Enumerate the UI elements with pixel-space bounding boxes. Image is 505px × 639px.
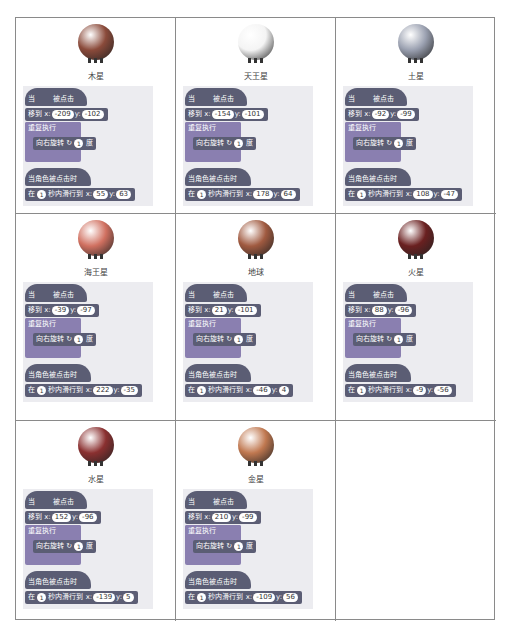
turn-right-block[interactable]: 向右旋转 ↻ 1 度 xyxy=(33,333,96,346)
x-input[interactable]: -92 xyxy=(372,110,389,119)
degrees-input[interactable]: 1 xyxy=(74,542,83,551)
turn-right-block[interactable]: 向右旋转 ↻ 1 度 xyxy=(33,540,96,553)
glide-block[interactable]: 在 1 秒内滑行到 x:-46y:4 xyxy=(185,384,293,397)
degrees-input[interactable]: 1 xyxy=(394,139,403,148)
when-sprite-clicked-block[interactable]: 当角色被点击时 xyxy=(185,364,251,382)
glide-x-input[interactable]: -109 xyxy=(253,593,275,602)
glide-x-input[interactable]: 55 xyxy=(93,190,108,199)
glide-x-input[interactable]: -9 xyxy=(413,386,426,395)
glide-y-input[interactable]: 4 xyxy=(279,386,289,395)
glide-block[interactable]: 在 1 秒内滑行到 x:178y:64 xyxy=(185,188,300,201)
goto-xy-block[interactable]: 移到 x:210y:-99 xyxy=(185,511,261,524)
y-input[interactable]: -97 xyxy=(77,306,94,315)
goto-xy-block[interactable]: 移到 x:-209y:-102 xyxy=(25,108,108,121)
glide-y-input[interactable]: -35 xyxy=(121,386,138,395)
degrees-input[interactable]: 1 xyxy=(394,335,403,344)
secs-input[interactable]: 1 xyxy=(37,593,46,602)
degrees-input[interactable]: 1 xyxy=(74,335,83,344)
when-flag-clicked-block[interactable]: 当被点击 xyxy=(345,284,407,302)
forever-block[interactable]: 重复执行 xyxy=(185,525,241,538)
forever-block[interactable]: 重复执行 xyxy=(25,122,81,135)
degrees-input[interactable]: 1 xyxy=(234,139,243,148)
when-sprite-clicked-block[interactable]: 当角色被点击时 xyxy=(185,168,251,186)
glide-x-input[interactable]: 108 xyxy=(413,190,432,199)
forever-block[interactable]: 重复执行 xyxy=(185,122,241,135)
x-input[interactable]: 152 xyxy=(52,513,71,522)
planet-sprite[interactable] xyxy=(396,24,436,64)
x-input[interactable]: 210 xyxy=(212,513,231,522)
when-sprite-clicked-block[interactable]: 当角色被点击时 xyxy=(25,364,91,382)
glide-y-input[interactable]: -47 xyxy=(441,190,458,199)
y-input[interactable]: -99 xyxy=(397,110,414,119)
planet-sprite[interactable] xyxy=(396,220,436,260)
when-flag-clicked-block[interactable]: 当被点击 xyxy=(185,491,247,509)
when-flag-clicked-block[interactable]: 当被点击 xyxy=(185,88,247,106)
when-flag-clicked-block[interactable]: 当被点击 xyxy=(345,88,407,106)
planet-sprite[interactable] xyxy=(76,24,116,64)
planet-sprite[interactable] xyxy=(236,220,276,260)
when-sprite-clicked-block[interactable]: 当角色被点击时 xyxy=(25,168,91,186)
glide-block[interactable]: 在 1 秒内滑行到 x:108y:-47 xyxy=(345,188,462,201)
planet-sprite[interactable] xyxy=(76,220,116,260)
y-input[interactable]: -96 xyxy=(79,513,96,522)
forever-block[interactable]: 重复执行 xyxy=(345,122,401,135)
when-flag-clicked-block[interactable]: 当被点击 xyxy=(25,491,87,509)
glide-x-input[interactable]: 178 xyxy=(253,190,272,199)
glide-block[interactable]: 在 1 秒内滑行到 x:55y:63 xyxy=(25,188,135,201)
forever-block[interactable]: 重复执行 xyxy=(25,525,81,538)
glide-x-input[interactable]: -46 xyxy=(253,386,270,395)
secs-input[interactable]: 1 xyxy=(197,190,206,199)
glide-block[interactable]: 在 1 秒内滑行到 x:-139y:5 xyxy=(25,591,138,604)
when-sprite-clicked-block[interactable]: 当角色被点击时 xyxy=(185,571,251,589)
x-input[interactable]: -154 xyxy=(212,110,234,119)
turn-right-block[interactable]: 向右旋转 ↻ 1 度 xyxy=(353,137,416,150)
glide-x-input[interactable]: 222 xyxy=(93,386,112,395)
secs-input[interactable]: 1 xyxy=(37,386,46,395)
glide-block[interactable]: 在 1 秒内滑行到 x:-9y:-56 xyxy=(345,384,456,397)
when-sprite-clicked-block[interactable]: 当角色被点击时 xyxy=(345,364,411,382)
turn-right-block[interactable]: 向右旋转 ↻ 1 度 xyxy=(193,333,256,346)
when-sprite-clicked-block[interactable]: 当角色被点击时 xyxy=(25,571,91,589)
degrees-input[interactable]: 1 xyxy=(74,139,83,148)
turn-right-block[interactable]: 向右旋转 ↻ 1 度 xyxy=(33,137,96,150)
goto-xy-block[interactable]: 移到 x:152y:-96 xyxy=(25,511,101,524)
planet-sprite[interactable] xyxy=(76,427,116,467)
glide-y-input[interactable]: 63 xyxy=(116,190,131,199)
x-input[interactable]: 88 xyxy=(372,306,387,315)
when-flag-clicked-block[interactable]: 当被点击 xyxy=(25,88,87,106)
glide-x-input[interactable]: -139 xyxy=(93,593,115,602)
glide-y-input[interactable]: 56 xyxy=(283,593,298,602)
degrees-input[interactable]: 1 xyxy=(234,542,243,551)
turn-right-block[interactable]: 向右旋转 ↻ 1 度 xyxy=(193,137,256,150)
forever-block[interactable]: 重复执行 xyxy=(25,318,81,331)
x-input[interactable]: -209 xyxy=(52,110,74,119)
secs-input[interactable]: 1 xyxy=(197,386,206,395)
planet-sprite[interactable] xyxy=(236,427,276,467)
glide-y-input[interactable]: 64 xyxy=(281,190,296,199)
goto-xy-block[interactable]: 移到 x:-92y:-99 xyxy=(345,108,419,121)
degrees-input[interactable]: 1 xyxy=(234,335,243,344)
x-input[interactable]: -39 xyxy=(52,306,69,315)
y-input[interactable]: -99 xyxy=(239,513,256,522)
x-input[interactable]: 21 xyxy=(212,306,227,315)
when-flag-clicked-block[interactable]: 当被点击 xyxy=(185,284,247,302)
y-input[interactable]: -96 xyxy=(395,306,412,315)
secs-input[interactable]: 1 xyxy=(357,386,366,395)
secs-input[interactable]: 1 xyxy=(357,190,366,199)
goto-xy-block[interactable]: 移到 x:88y:-96 xyxy=(345,304,416,317)
glide-y-input[interactable]: 5 xyxy=(123,593,133,602)
secs-input[interactable]: 1 xyxy=(37,190,46,199)
y-input[interactable]: -101 xyxy=(242,110,264,119)
secs-input[interactable]: 1 xyxy=(197,593,206,602)
goto-xy-block[interactable]: 移到 x:21y:-101 xyxy=(185,304,261,317)
glide-block[interactable]: 在 1 秒内滑行到 x:-109y:56 xyxy=(185,591,302,604)
when-flag-clicked-block[interactable]: 当被点击 xyxy=(25,284,87,302)
y-input[interactable]: -101 xyxy=(235,306,257,315)
goto-xy-block[interactable]: 移到 x:-154y:-101 xyxy=(185,108,268,121)
forever-block[interactable]: 重复执行 xyxy=(345,318,401,331)
planet-sprite[interactable] xyxy=(236,24,276,64)
glide-y-input[interactable]: -56 xyxy=(434,386,451,395)
forever-block[interactable]: 重复执行 xyxy=(185,318,241,331)
turn-right-block[interactable]: 向右旋转 ↻ 1 度 xyxy=(193,540,256,553)
when-sprite-clicked-block[interactable]: 当角色被点击时 xyxy=(345,168,411,186)
